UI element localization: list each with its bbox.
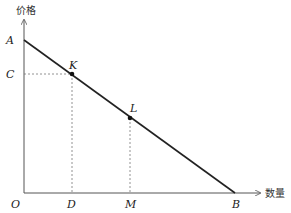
- label-d: D: [66, 198, 76, 211]
- demand-curve-diagram: 价格 数量 A C K L O D M B: [0, 0, 291, 213]
- label-l: L: [129, 102, 137, 115]
- label-m: M: [124, 198, 137, 211]
- point-l: [128, 116, 133, 121]
- point-k: [70, 72, 75, 77]
- label-a: A: [5, 34, 14, 47]
- label-c: C: [6, 68, 15, 81]
- label-k: K: [68, 59, 78, 72]
- label-o: O: [11, 198, 20, 211]
- label-b: B: [231, 198, 240, 211]
- x-axis-label: 数量: [265, 187, 285, 199]
- y-axis-label: 价格: [16, 4, 36, 16]
